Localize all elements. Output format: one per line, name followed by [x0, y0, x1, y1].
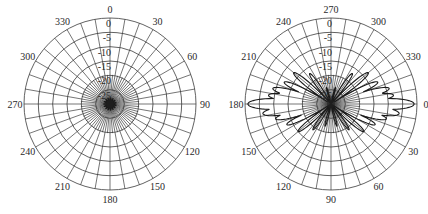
right-angle-label-180: 180 — [229, 99, 244, 110]
left-radial-label-minus10: -10 — [98, 47, 111, 58]
left-angle-label-300: 300 — [20, 51, 35, 62]
right-angle-label-330: 330 — [406, 51, 421, 62]
center-hub — [106, 100, 114, 108]
right-radial-label-minus15: -15 — [319, 61, 332, 72]
polar-charts-canvas: 0 30 60 90 120 150 180 210 240 270 300 3… — [0, 0, 428, 214]
left-angle-label-120: 120 — [185, 146, 200, 157]
right-angle-label-300: 300 — [371, 16, 386, 27]
center-hub — [327, 100, 335, 108]
right-radial-label-minus10: -10 — [319, 47, 332, 58]
left-angle-label-0: 0 — [108, 4, 113, 15]
left-radial-label-minus5: -5 — [103, 32, 111, 43]
right-angle-label-90: 90 — [326, 194, 336, 205]
right-radial-label-0: 0 — [327, 18, 332, 29]
right-angle-label-30: 30 — [408, 146, 418, 157]
right-radial-label-minus25: -25 — [319, 90, 332, 101]
right-angle-label-150: 150 — [241, 146, 256, 157]
right-angle-label-0: 0 — [424, 99, 428, 110]
right-angle-label-210: 210 — [241, 51, 256, 62]
left-angle-label-90: 90 — [200, 99, 210, 110]
left-angle-label-270: 270 — [8, 99, 23, 110]
left-angle-label-180: 180 — [103, 194, 118, 205]
right-polar-chart: 270 300 330 0 30 60 90 120 150 180 210 2… — [229, 4, 428, 205]
left-angle-label-150: 150 — [150, 181, 165, 192]
left-angle-label-210: 210 — [55, 181, 70, 192]
figure: 0 30 60 90 120 150 180 210 240 270 300 3… — [0, 0, 428, 214]
right-radial-label-minus5: -5 — [324, 32, 332, 43]
right-angle-label-270: 270 — [324, 4, 339, 15]
right-angle-label-240: 240 — [276, 16, 291, 27]
left-radial-label-minus25: -25 — [98, 90, 111, 101]
right-angle-label-120: 120 — [276, 181, 291, 192]
left-radial-label-minus20: -20 — [98, 75, 111, 86]
right-angle-label-60: 60 — [374, 181, 384, 192]
left-polar-chart: 0 30 60 90 120 150 180 210 240 270 300 3… — [8, 4, 211, 205]
left-angle-label-330: 330 — [55, 16, 70, 27]
left-angle-label-240: 240 — [20, 146, 35, 157]
left-angle-label-30: 30 — [153, 16, 163, 27]
left-radial-label-0: 0 — [106, 18, 111, 29]
right-radial-label-minus20: -20 — [319, 75, 332, 86]
left-radial-label-minus15: -15 — [98, 61, 111, 72]
left-angle-label-60: 60 — [187, 51, 197, 62]
